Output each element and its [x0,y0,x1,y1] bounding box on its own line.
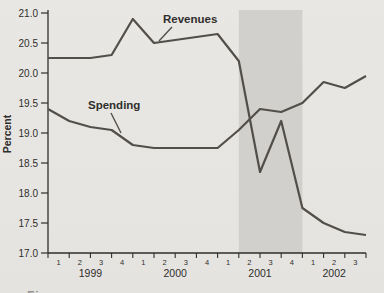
y-tick-label: 19.0 [19,128,39,139]
year-label: 2002 [323,267,347,279]
quarter-label: 2 [163,258,167,267]
quarter-label: 3 [184,258,188,267]
chart-canvas: 21.020.520.019.519.018.518.017.517.01234… [0,0,384,293]
quarter-label: 4 [205,258,209,267]
y-axis-title: Percent [1,114,13,153]
quarter-label: 3 [353,258,357,267]
revenues-label: Revenues [163,13,217,25]
recession-band [239,10,303,253]
quarter-label: 1 [57,258,61,267]
year-label: 2000 [164,267,188,279]
y-tick-label: 18.0 [19,188,39,199]
y-tick-label: 17.5 [19,218,39,229]
spending-line [48,76,366,148]
caption-clipped-text: Figure [27,289,227,293]
year-label: 2001 [248,267,272,279]
year-label: 1999 [79,267,103,279]
quarter-label: 1 [311,258,315,267]
quarter-label: 1 [226,258,230,267]
quarter-label: 1 [141,258,145,267]
quarter-label: 2 [332,258,336,267]
quarter-label: 4 [290,258,294,267]
y-tick-label: 20.0 [19,68,39,79]
figure-page: 21.020.520.019.519.018.518.017.517.01234… [0,0,384,293]
quarter-label: 3 [269,258,273,267]
y-tick-label: 20.5 [19,38,39,49]
spending-label: Spending [88,99,140,111]
quarter-label: 2 [78,258,82,267]
y-tick-label: 18.5 [19,158,39,169]
y-tick-label: 19.5 [19,98,39,109]
y-tick-label: 21.0 [19,8,39,19]
revenues-pointer-line [159,27,172,41]
quarter-label: 3 [99,258,103,267]
revenues-spending-line-chart: 21.020.520.019.519.018.518.017.517.01234… [0,0,384,293]
quarter-label: 2 [247,258,251,267]
quarter-label: 4 [120,258,124,267]
y-tick-label: 17.0 [19,248,39,259]
